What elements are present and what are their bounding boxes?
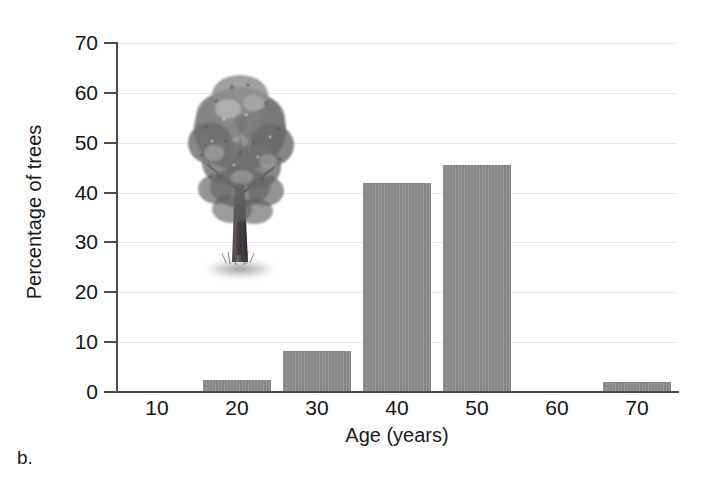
gridline	[117, 43, 677, 44]
y-axis-label: Percentage of trees	[23, 92, 53, 332]
y-axis-tick	[104, 291, 117, 293]
x-axis-tick-label: 10	[127, 397, 187, 418]
x-axis-line	[117, 391, 679, 393]
y-axis-tick-label: 10	[52, 331, 98, 352]
x-axis-tick-label: 20	[207, 397, 267, 418]
x-axis-tick-label: 50	[447, 397, 507, 418]
gridline	[117, 143, 677, 144]
x-axis-tick-label: 60	[527, 397, 587, 418]
y-axis-tick	[104, 142, 117, 144]
y-axis-tick-label: 20	[52, 281, 98, 302]
bar	[283, 351, 351, 392]
panel-letter: b.	[17, 447, 33, 469]
x-axis-label: Age (years)	[117, 424, 677, 447]
y-axis-tick-label: 40	[52, 182, 98, 203]
y-axis-tick	[104, 341, 117, 343]
y-axis-tick-label: 0	[52, 381, 98, 402]
y-axis-tick-label: 60	[52, 82, 98, 103]
x-axis-tick-label: 70	[607, 397, 667, 418]
y-axis-tick-label: 50	[52, 132, 98, 153]
gridline	[117, 93, 677, 94]
y-axis-tick	[104, 241, 117, 243]
figure-panel-b: Percentage of trees 01020304050607010203…	[0, 0, 708, 484]
bar	[443, 165, 511, 392]
y-axis-tick	[104, 192, 117, 194]
x-axis-tick-label: 40	[367, 397, 427, 418]
x-axis-tick-label: 30	[287, 397, 347, 418]
y-axis-tick	[104, 391, 117, 393]
bar	[363, 183, 431, 392]
y-axis-tick	[104, 92, 117, 94]
y-axis-tick-label: 70	[52, 32, 98, 53]
y-axis-tick	[104, 42, 117, 44]
y-axis-tick-label: 30	[52, 231, 98, 252]
plot-area	[117, 43, 677, 392]
